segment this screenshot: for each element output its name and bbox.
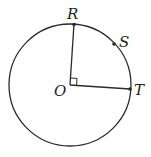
diagram-canvas: R S T O (0, 0, 151, 157)
label-R: R (66, 5, 78, 23)
label-S: S (119, 33, 129, 51)
label-T: T (134, 81, 145, 99)
point-S-dot (112, 42, 116, 46)
segment-OR (70, 24, 74, 85)
point-T-dot (128, 87, 132, 91)
point-R-dot (72, 23, 76, 27)
circle-diagram: R S T O (0, 0, 151, 157)
right-angle-marker (71, 78, 78, 85)
segment-OT (70, 85, 130, 89)
label-O: O (54, 82, 66, 100)
